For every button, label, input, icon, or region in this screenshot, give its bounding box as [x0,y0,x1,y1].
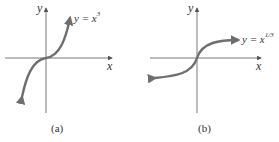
x-axis-label-a: x [107,59,112,74]
x-axis-label-b: x [256,59,261,74]
exponent-a: 3 [97,10,101,18]
figure-canvas [0,0,279,142]
y-axis-label-b: y [188,1,193,16]
y-axis-label-a: y [37,1,42,16]
panel-b [150,8,261,113]
exponent-b: 1/3 [265,31,274,39]
caption-a: (a) [51,122,63,134]
equation-label-b: y = x1/3 [242,33,274,45]
cube-root-curve [155,40,238,78]
equation-label-a: y = x3 [74,12,100,24]
caption-b: (b) [198,122,211,134]
